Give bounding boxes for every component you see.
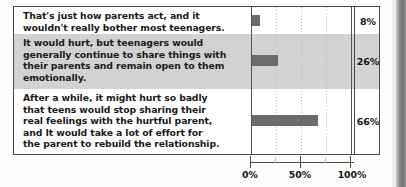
- x-axis: 0% 50% 100%: [13, 155, 380, 187]
- chart-row: After a while, it might hurt so badly th…: [14, 89, 379, 155]
- x-tick-75: [325, 158, 326, 163]
- row-label: That's just how parents act, and it woul…: [23, 10, 245, 33]
- x-tick-label-0: 0%: [230, 169, 270, 180]
- x-tick-label-100: 100%: [332, 169, 372, 180]
- x-axis-rule: [250, 162, 354, 163]
- percent-value-row-2: 26%: [355, 56, 381, 67]
- row-label: After a while, it might hurt so badly th…: [23, 92, 245, 150]
- gridline-50-percent: [301, 7, 302, 154]
- x-tick-25: [275, 158, 276, 163]
- chart-row: It would hurt, but teenagers would gener…: [14, 34, 379, 89]
- x-tick-label-50: 50%: [280, 169, 320, 180]
- percent-value-row-3: 66%: [355, 116, 381, 127]
- gridline-75-percent: [326, 7, 327, 154]
- x-tick-50: [300, 156, 301, 168]
- percent-value-row-1: 8%: [355, 16, 381, 27]
- chart-frame: That's just how parents act, and it woul…: [13, 6, 380, 155]
- axis-line-0-percent: [251, 7, 252, 154]
- bar-row-2: [252, 55, 278, 66]
- chart-row: That's just how parents act, and it woul…: [14, 7, 379, 34]
- row-label: It would hurt, but teenagers would gener…: [23, 37, 245, 83]
- x-tick-100: [350, 156, 351, 168]
- gridline-25-percent: [276, 7, 277, 154]
- x-tick-0: [250, 156, 251, 168]
- bar-row-1: [252, 15, 260, 26]
- bar-row-3: [252, 115, 318, 126]
- page-edge-shadow: [396, 0, 406, 187]
- axis-line-100-percent: [351, 7, 352, 154]
- percent-column-divider: [354, 7, 355, 154]
